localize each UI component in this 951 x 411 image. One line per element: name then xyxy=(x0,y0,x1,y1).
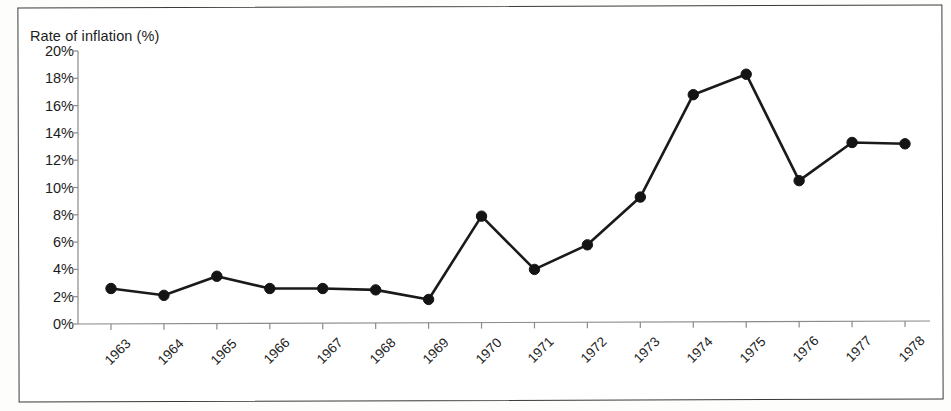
x-axis-tick-label: 1971 xyxy=(525,334,557,366)
x-axis-tick-label: 1966 xyxy=(261,335,293,367)
x-axis-tick-label: 1969 xyxy=(419,335,451,367)
x-axis-tick-label: 1974 xyxy=(684,334,716,366)
line-chart: Rate of inflation (%) 0%2%4%6%8%10%12%14… xyxy=(0,0,951,411)
x-axis-tick-label: 1973 xyxy=(631,334,663,366)
x-axis-tick-label: 1976 xyxy=(790,333,822,365)
x-axis-tick-label: 1970 xyxy=(472,335,504,367)
x-axis-tick-label: 1965 xyxy=(208,336,240,368)
x-axis-tick-label: 1968 xyxy=(366,335,398,367)
x-axis-tick-label: 1977 xyxy=(843,333,875,365)
x-axis-tick-label: 1964 xyxy=(155,336,187,368)
x-axis-tick-label: 1967 xyxy=(313,335,345,367)
x-axis-tick-label: 1963 xyxy=(102,336,134,368)
scanned-page: Rate of inflation (%) 0%2%4%6%8%10%12%14… xyxy=(0,0,951,411)
x-axis-tick-label: 1975 xyxy=(737,334,769,366)
x-axis-tick-label: 1972 xyxy=(578,334,610,366)
x-axis-tick-label: 1978 xyxy=(896,333,928,365)
x-axis-tick-labels: 1963196419651966196719681969197019711972… xyxy=(0,0,951,411)
